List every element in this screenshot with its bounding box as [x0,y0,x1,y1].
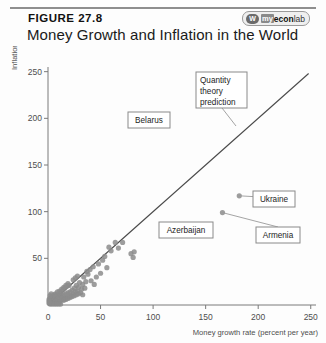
svg-text:0: 0 [46,312,51,322]
x-axis-title: Money growth rate (percent per year) [193,328,319,337]
myeconlab-mark-icon: W [246,14,259,24]
svg-text:100: 100 [146,312,160,322]
svg-text:150: 150 [199,312,213,322]
svg-text:250: 250 [28,67,42,77]
header-divider [10,7,316,9]
myeconlab-econ-text: econ [274,14,294,24]
svg-text:150: 150 [28,160,42,170]
chart-canvas: 50100150200250050100150200250 Money grow… [0,46,326,343]
myeconlab-my-text: my [261,14,274,23]
myeconlab-logo[interactable]: W my econ lab [242,11,310,26]
svg-text:50: 50 [96,312,106,322]
figure-title: Money Growth and Inflation in the World [27,26,298,43]
svg-text:50: 50 [33,253,43,263]
myeconlab-lab-text: lab [294,14,305,24]
svg-text:200: 200 [251,312,265,322]
figure-root: FIGURE 27.8 Money Growth and Inflation i… [0,0,326,343]
svg-text:200: 200 [28,113,42,123]
figure-number: FIGURE 27.8 [28,12,103,24]
svg-text:100: 100 [28,207,42,217]
svg-text:250: 250 [304,312,318,322]
y-axis-title: Inflation rate (percent per year) [10,46,19,70]
scatter-plot: 50100150200250050100150200250 Money grow… [0,46,326,343]
data-points [46,122,241,306]
